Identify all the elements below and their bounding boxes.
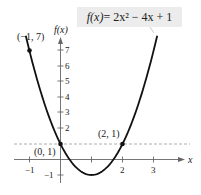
point-label-0-1: (0, 1) — [34, 146, 56, 158]
x-tick-label-3: 3 — [151, 165, 156, 175]
y-tick-label-4: 4 — [65, 92, 70, 102]
point-label-neg1-7: (−1, 7) — [17, 31, 44, 43]
y-tick-label-neg1: −1 — [44, 170, 54, 180]
y-tick-label-2: 2 — [65, 123, 70, 133]
y-tick-label-7: 7 — [65, 45, 70, 55]
x-tick-label-neg1: −1 — [25, 165, 35, 175]
point-label-2-1: (2, 1) — [98, 128, 120, 140]
equation-label: f(x) = 2x² − 4x + 1 — [77, 7, 182, 27]
x-tick-label-2: 2 — [120, 165, 125, 175]
y-tick-label-6: 6 — [65, 61, 70, 71]
x-axis-label: x — [187, 154, 193, 165]
equation-rhs: = 2x² − 4x + 1 — [103, 10, 172, 25]
point-2-1 — [120, 142, 125, 147]
function-graph: x f(x) −1 2 3 7 6 5 4 3 2 −1 (−1, 7) (0,… — [0, 0, 201, 195]
y-axis-label: f(x) — [54, 24, 69, 36]
equation-pointer — [150, 27, 154, 33]
equation-lhs: f(x) — [87, 10, 104, 25]
x-axis-arrow-icon — [178, 157, 185, 162]
point-neg1-7 — [27, 48, 32, 53]
y-axis-arrow-icon — [58, 37, 63, 44]
y-tick-label-5: 5 — [65, 76, 70, 86]
y-tick-label-3: 3 — [65, 107, 70, 117]
point-0-1 — [58, 142, 63, 147]
